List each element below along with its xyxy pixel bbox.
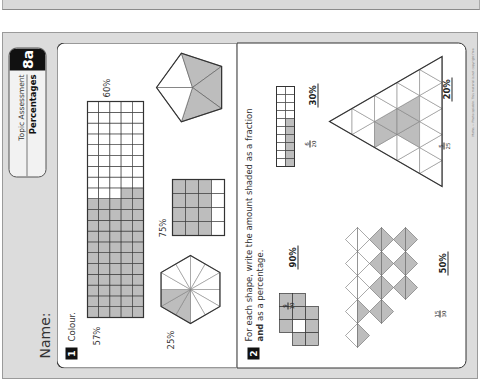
fraction-6-20: 620	[304, 141, 317, 148]
copyright-note: Maths — Photocopiable. This material is …	[471, 48, 475, 248]
question-number-2: 2	[248, 348, 260, 360]
rectangle-grid-57	[88, 102, 144, 318]
square-cluster-shape	[278, 278, 338, 348]
fraction-5-25: 525	[438, 143, 451, 150]
question-2-instruction: For each shape, write the amount shaded …	[244, 52, 266, 342]
square-grid-75	[173, 178, 227, 236]
question-number-1: 1	[66, 348, 78, 360]
question-2-panel: 2 For each shape, write the amount shade…	[237, 43, 467, 369]
rectangle-grid-2x10	[276, 84, 296, 168]
zigzag-triangle-shape	[338, 218, 428, 348]
previous-page-edge	[2, 0, 480, 10]
name-label: Name:	[37, 312, 53, 358]
hexagon-25	[153, 252, 229, 328]
label-25: 25%	[166, 331, 176, 350]
pentagon-60	[153, 48, 233, 128]
answer-50: 50%	[438, 251, 449, 275]
question-1-instruction: Colour.	[67, 312, 78, 342]
answer-90: 90%	[288, 245, 299, 269]
worksheet-page: Topic Assessment Percentages 8a Name: 1 …	[3, 34, 477, 379]
label-60: 60%	[102, 79, 112, 98]
answer-20: 20%	[442, 77, 453, 101]
topic-label: Topic Assessment	[17, 75, 27, 141]
question-1-panel: 1 Colour. 57% 25% 75% 60%	[57, 43, 237, 369]
fraction-9-10: 910	[282, 303, 295, 310]
topic-header: Topic Assessment Percentages 8a	[9, 48, 47, 178]
scanned-page: Topic Assessment Percentages 8a Name: 1 …	[2, 32, 478, 379]
label-57: 57%	[92, 327, 102, 346]
answer-30: 30%	[308, 83, 319, 107]
triangle-grid-shape	[326, 52, 446, 192]
unit-badge: 8a	[10, 49, 46, 71]
label-75: 75%	[158, 219, 168, 238]
subject-label: Percentages	[27, 75, 39, 177]
fraction-15-30: 1530	[434, 311, 447, 318]
